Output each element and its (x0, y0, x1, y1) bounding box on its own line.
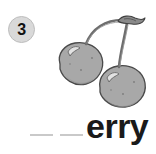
right-cherry-stem (119, 23, 127, 67)
left-cherry-speckle (91, 57, 93, 59)
left-cherry-stem (86, 20, 122, 44)
right-cherry-body (100, 66, 146, 107)
left-cherry-speckle (69, 63, 71, 65)
word-suffix-label: erry (86, 108, 148, 144)
stem-knot (118, 16, 145, 24)
cherry-pair-group (59, 16, 145, 107)
cherries-illustration (48, 12, 156, 116)
word-prompt: erry (0, 112, 156, 148)
right-cherry-speckle (110, 89, 112, 91)
question-number-label: 3 (17, 22, 25, 38)
right-cherry-speckle (133, 81, 135, 83)
worksheet-page: 3 (0, 0, 156, 154)
answer-blank-2[interactable] (60, 134, 83, 136)
right-cherry-speckle (122, 93, 124, 95)
answer-blank-1[interactable] (30, 134, 53, 136)
left-cherry-speckle (80, 69, 82, 71)
left-cherry-body (59, 43, 102, 85)
question-number-badge: 3 (8, 16, 35, 43)
